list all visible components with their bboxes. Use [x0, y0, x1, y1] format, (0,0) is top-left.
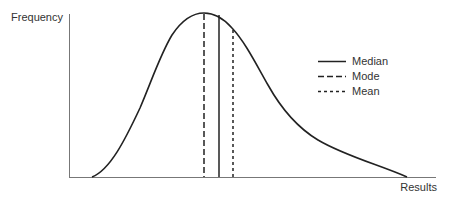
x-axis-label: Results — [400, 181, 437, 193]
y-axis-label: Frequency — [11, 11, 63, 23]
skewed-distribution-chart: Frequency Results Median Mode Mean — [0, 0, 453, 197]
legend-median-label: Median — [352, 55, 388, 67]
legend-mean-label: Mean — [352, 85, 380, 97]
legend-mode-label: Mode — [352, 70, 380, 82]
legend: Median Mode Mean — [318, 55, 388, 97]
